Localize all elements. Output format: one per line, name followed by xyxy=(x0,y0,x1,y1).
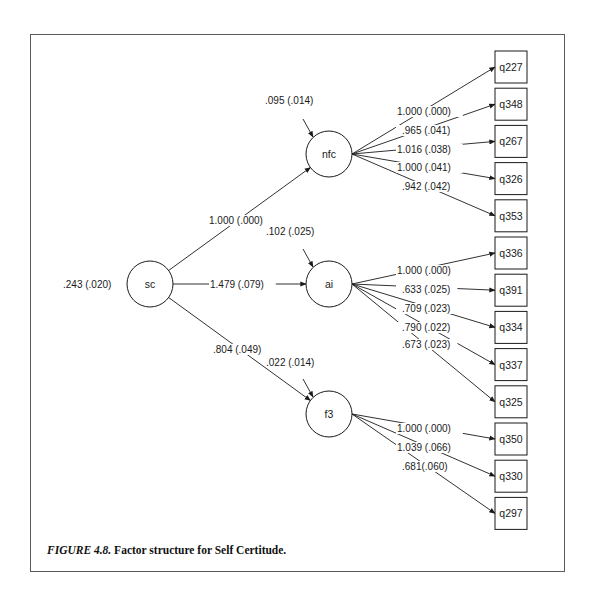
indicator-q330-label: q330 xyxy=(499,470,523,482)
loading-label-ai-q337: .790 (.022) xyxy=(402,322,450,333)
indicator-q227-label: q227 xyxy=(499,61,523,73)
loading-label-f3-q350: 1.000 (.000) xyxy=(397,423,451,434)
loading-label-nfc-q267: 1.016 (.038) xyxy=(397,144,451,155)
disturbance-label-nfc: .095 (.014) xyxy=(265,95,313,106)
latent-factor-sc-label: sc xyxy=(145,278,156,290)
indicator-q337-label: q337 xyxy=(499,359,523,371)
loading-label-nfc-q227: 1.000 (.000) xyxy=(397,106,451,117)
disturbance-arrow-f3 xyxy=(303,379,313,397)
latent-factor-nfc-label: nfc xyxy=(322,148,336,160)
indicator-q326-label: q326 xyxy=(499,173,523,185)
path-label-sc-f3: .804 (.049) xyxy=(213,344,261,355)
indicator-q297-label: q297 xyxy=(499,507,523,519)
diagram-nodes: scnfcq227q348q267q326q353aiq336q391q334q… xyxy=(127,51,527,529)
loading-label-ai-q336: 1.000 (.000) xyxy=(397,265,451,276)
latent-factor-f3-label: f3 xyxy=(325,408,334,420)
indicator-q348-label: q348 xyxy=(499,98,523,110)
indicator-q350-label: q350 xyxy=(499,433,523,445)
disturbance-arrow-nfc xyxy=(303,119,313,137)
disturbance-label-ai: .102 (.025) xyxy=(266,226,314,237)
indicator-q353-label: q353 xyxy=(499,210,523,222)
loading-label-ai-q325: .673 (.023) xyxy=(402,339,450,350)
sc-variance-label: .243 (.020) xyxy=(63,279,111,290)
indicator-q391-label: q391 xyxy=(499,284,523,296)
loading-label-nfc-q326: 1.000 (.041) xyxy=(397,162,451,173)
loading-label-f3-q330: 1.039 (.066) xyxy=(397,442,451,453)
sem-diagram: scnfcq227q348q267q326q353aiq336q391q334q… xyxy=(0,0,591,603)
figure-number: FIGURE 4.8. xyxy=(47,544,111,556)
latent-factor-ai-label: ai xyxy=(325,278,333,290)
path-label-sc-ai: 1.479 (.079) xyxy=(210,279,264,290)
loading-label-ai-q391: .633 (.025) xyxy=(402,284,450,295)
loading-label-nfc-q353: .942 (.042) xyxy=(402,181,450,192)
disturbance-label-f3: .022 (.014) xyxy=(266,357,314,368)
indicator-q334-label: q334 xyxy=(499,321,523,333)
indicator-q325-label: q325 xyxy=(499,396,523,408)
figure-caption: FIGURE 4.8. Factor structure for Self Ce… xyxy=(47,544,286,556)
indicator-q267-label: q267 xyxy=(499,135,523,147)
disturbance-arrow-ai xyxy=(303,249,313,267)
loading-label-nfc-q348: .965 (.041) xyxy=(402,125,450,136)
loading-label-ai-q334: .709 (.023) xyxy=(402,303,450,314)
path-label-sc-nfc: 1.000 (.000) xyxy=(209,215,263,226)
loading-label-f3-q297: .681(.060) xyxy=(402,461,448,472)
path-coefficient-labels: .243 (.020)1.000 (.000).095 (.014)1.000 … xyxy=(63,95,463,472)
indicator-q336-label: q336 xyxy=(499,247,523,259)
figure-title: Factor structure for Self Certitude. xyxy=(111,544,286,556)
